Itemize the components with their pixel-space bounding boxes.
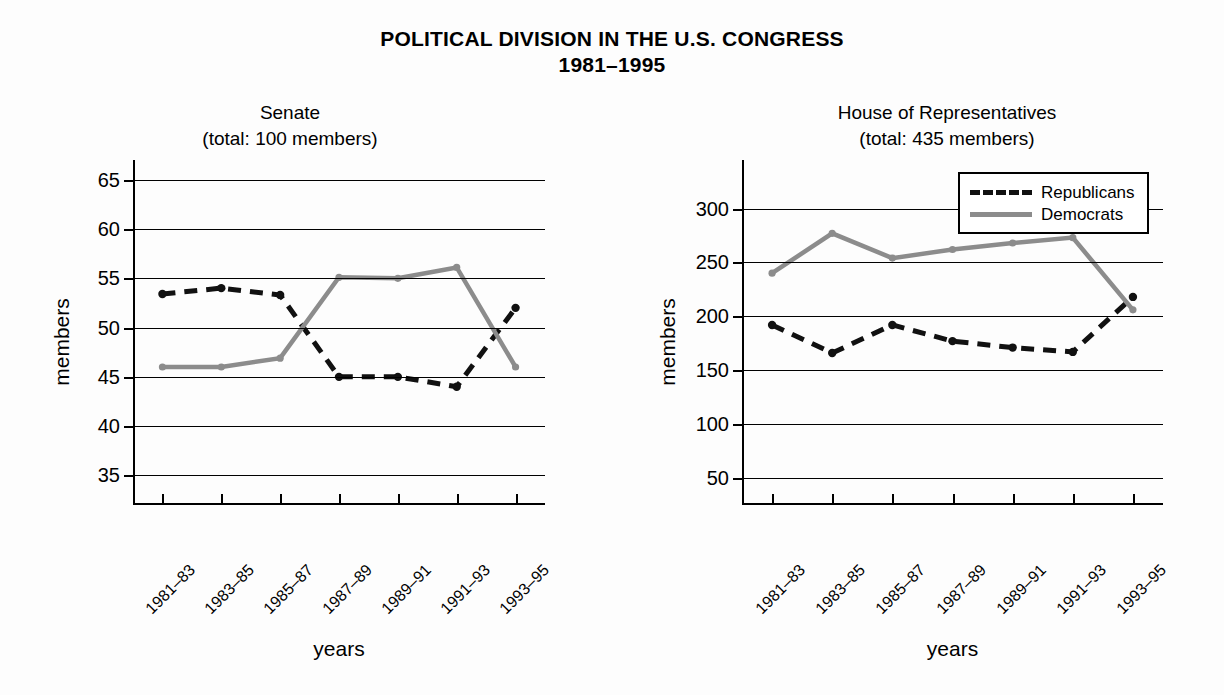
data-point (1129, 306, 1136, 313)
data-point (158, 290, 166, 298)
y-axis-tick-label: 40 (98, 415, 120, 438)
data-point (1009, 239, 1016, 246)
data-point (768, 270, 775, 277)
legend-item-democrats: Democrats (970, 203, 1135, 225)
y-axis-tick (733, 478, 742, 480)
y-axis-tick (733, 316, 742, 318)
y-axis-tick (124, 229, 133, 231)
y-axis-tick-label: 100 (696, 413, 729, 436)
gridline (133, 426, 545, 427)
y-axis-tick (124, 475, 133, 477)
senate-y-axis-label: members (50, 262, 74, 422)
x-axis-tick (398, 494, 400, 505)
x-axis-tick-label: 1987–89 (933, 561, 990, 618)
x-axis-tick (457, 494, 459, 505)
data-point (276, 291, 284, 299)
x-axis-tick-label: 1991–93 (1053, 561, 1110, 618)
data-point (888, 321, 896, 329)
senate-plot-area: 354045505560651981–831983–851985–871987–… (133, 160, 545, 505)
data-point (1069, 234, 1076, 241)
series-line-democrats (772, 233, 1133, 310)
senate-x-axis-label: years (133, 637, 545, 661)
y-axis-tick (124, 328, 133, 330)
y-axis-tick (733, 424, 742, 426)
data-point (948, 337, 956, 345)
gridline (742, 424, 1163, 425)
gridline (742, 478, 1163, 479)
data-point (453, 383, 461, 391)
y-axis-tick (733, 370, 742, 372)
legend-swatch-democrats (970, 208, 1032, 220)
y-axis-tick-label: 50 (98, 316, 120, 339)
y-axis-tick-label: 200 (696, 305, 729, 328)
x-axis-tick (339, 494, 341, 505)
y-axis-tick-label: 250 (696, 251, 729, 274)
gridline (742, 262, 1163, 263)
data-point (159, 363, 166, 370)
gridline (133, 229, 545, 230)
x-axis-tick (1013, 494, 1015, 505)
x-axis-tick (1073, 494, 1075, 505)
y-axis-tick-label: 150 (696, 359, 729, 382)
x-axis-tick (953, 494, 955, 505)
data-point (1129, 293, 1137, 301)
x-axis-tick-label: 1993–95 (1113, 561, 1170, 618)
gridline (133, 278, 545, 279)
x-axis-tick (772, 494, 774, 505)
house-x-axis-label: years (742, 637, 1163, 661)
y-axis-tick (124, 278, 133, 280)
y-axis-tick-label: 65 (98, 168, 120, 191)
gridline (133, 377, 545, 378)
series-line-democrats (162, 267, 515, 367)
y-axis-tick (124, 377, 133, 379)
y-axis-tick (733, 262, 742, 264)
x-axis-tick-label: 1981–83 (752, 561, 809, 618)
gridline (742, 370, 1163, 371)
house-subtitle: House of Representatives (total: 435 mem… (680, 100, 1214, 152)
panel-house: House of Representatives (total: 435 mem… (600, 0, 1224, 695)
data-point (1069, 348, 1077, 356)
senate-chart-title: Senate (40, 100, 540, 126)
data-point (828, 349, 836, 357)
legend-label-democrats: Democrats (1041, 206, 1123, 223)
gridline (133, 180, 545, 181)
y-axis-tick (124, 426, 133, 428)
x-axis-tick (162, 494, 164, 505)
data-point (453, 264, 460, 271)
gridline (133, 328, 545, 329)
y-axis-tick-label: 300 (696, 197, 729, 220)
y-axis-tick (733, 209, 742, 211)
data-point (768, 321, 776, 329)
x-axis-tick-label: 1983–85 (812, 561, 869, 618)
legend-item-republicans: Republicans (970, 181, 1135, 203)
senate-chart-total: (total: 100 members) (40, 126, 540, 152)
x-axis-tick (1133, 494, 1135, 505)
data-point (889, 255, 896, 262)
y-axis-tick-label: 50 (707, 467, 729, 490)
gridline (742, 316, 1163, 317)
x-axis-tick (280, 494, 282, 505)
y-axis-tick-label: 35 (98, 464, 120, 487)
series-line-republicans (162, 288, 515, 387)
data-point (829, 230, 836, 237)
data-point (512, 363, 519, 370)
data-point (949, 246, 956, 253)
gridline (133, 475, 545, 476)
senate-series-layer (133, 160, 545, 505)
senate-subtitle: Senate (total: 100 members) (40, 100, 540, 152)
x-axis-tick-label: 1985–87 (873, 561, 930, 618)
data-point (217, 284, 225, 292)
x-axis-tick-label: 1989–91 (378, 561, 435, 618)
chart-page: POLITICAL DIVISION IN THE U.S. CONGRESS … (0, 0, 1224, 695)
house-y-axis-label: members (656, 262, 680, 422)
data-point (277, 355, 284, 362)
data-point (1008, 343, 1016, 351)
panel-senate: Senate (total: 100 members) 354045505560… (0, 0, 600, 695)
data-point (511, 304, 519, 312)
legend: Republicans Democrats (958, 172, 1149, 234)
data-point (218, 363, 225, 370)
x-axis-tick (892, 494, 894, 505)
legend-label-republicans: Republicans (1041, 184, 1135, 201)
legend-swatch-republicans (970, 186, 1032, 198)
y-axis-tick-label: 55 (98, 267, 120, 290)
